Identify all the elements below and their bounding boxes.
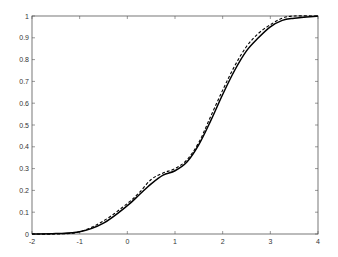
y-tick-label: 0 <box>25 231 29 238</box>
x-tick-label: 4 <box>316 238 320 245</box>
smooth-cdf-line <box>32 16 318 234</box>
y-tick-label: 0.6 <box>19 100 29 107</box>
x-tick-label: 2 <box>221 238 225 245</box>
plot-series <box>32 16 318 234</box>
x-tick-label: 1 <box>173 238 177 245</box>
y-tick-label: 0.3 <box>19 165 29 172</box>
y-tick-label: 0.5 <box>19 122 29 129</box>
x-tick-label: 0 <box>125 238 129 245</box>
x-axis: -2-101234 <box>29 16 320 245</box>
cdf-chart: 00.10.20.30.40.50.60.70.80.91 -2-101234 <box>0 0 338 257</box>
y-tick-label: 0.8 <box>19 56 29 63</box>
y-tick-label: 0.7 <box>19 78 29 85</box>
x-tick-label: -1 <box>77 238 83 245</box>
y-axis: 00.10.20.30.40.50.60.70.80.91 <box>19 13 318 238</box>
plot-frame <box>32 16 318 234</box>
y-tick-label: 1 <box>25 13 29 20</box>
x-tick-label: 3 <box>268 238 272 245</box>
empirical-cdf-line <box>32 16 318 234</box>
y-tick-label: 0.4 <box>19 143 29 150</box>
y-tick-label: 0.9 <box>19 34 29 41</box>
y-tick-label: 0.2 <box>19 187 29 194</box>
y-tick-label: 0.1 <box>19 209 29 216</box>
x-tick-label: -2 <box>29 238 35 245</box>
